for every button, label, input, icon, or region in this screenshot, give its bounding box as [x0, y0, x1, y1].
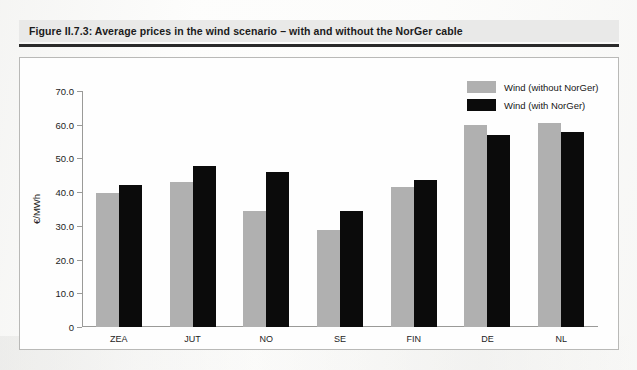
bar-pair: [391, 180, 437, 327]
y-tick-label: 50.0: [56, 153, 75, 164]
bar-pair: [317, 211, 363, 327]
bar-group: NL: [524, 91, 598, 327]
bar-group: DE: [451, 91, 525, 327]
x-tick-label-no: NO: [260, 334, 274, 344]
x-tick-label-de: DE: [481, 334, 494, 344]
chart-frame: Wind (without NorGer) Wind (with NorGer)…: [19, 57, 619, 350]
bar-se-without-norger[interactable]: [317, 230, 340, 327]
bar-pair: [243, 172, 289, 327]
y-tick-label: 60.0: [56, 119, 75, 130]
bar-jut-with-norger[interactable]: [193, 166, 216, 327]
bar-no-without-norger[interactable]: [243, 211, 266, 327]
y-tick-label: 30.0: [56, 220, 75, 231]
bar-group: NO: [229, 91, 303, 327]
bar-group: ZEA: [82, 91, 156, 327]
y-tick-label: 70.0: [56, 86, 75, 97]
x-tick-label-fin: FIN: [406, 334, 421, 344]
y-tick-label: 20.0: [56, 254, 75, 265]
bar-jut-without-norger[interactable]: [170, 182, 193, 327]
bar-fin-without-norger[interactable]: [391, 187, 414, 327]
plot-area: €/MWh 010.020.030.040.050.060.070.0 ZEAJ…: [82, 91, 598, 327]
y-tick-label: 10.0: [56, 288, 75, 299]
y-axis-title: €/MWh: [31, 194, 42, 224]
figure-title-rule: [19, 44, 619, 47]
bar-groups: ZEAJUTNOSEFINDENL: [82, 91, 598, 327]
bar-nl-without-norger[interactable]: [538, 123, 561, 327]
bar-pair: [96, 185, 142, 327]
bar-group: SE: [303, 91, 377, 327]
x-tick-label-nl: NL: [555, 334, 567, 344]
bar-no-with-norger[interactable]: [266, 172, 289, 327]
y-tick-label: 0: [69, 322, 74, 333]
bar-zea-with-norger[interactable]: [119, 185, 142, 327]
bar-de-with-norger[interactable]: [487, 135, 510, 327]
y-tick-mark: [77, 327, 82, 328]
x-tick-label-zea: ZEA: [110, 334, 128, 344]
bar-de-without-norger[interactable]: [464, 125, 487, 327]
bar-fin-with-norger[interactable]: [414, 180, 437, 327]
x-tick-label-se: SE: [334, 334, 346, 344]
bar-pair: [538, 123, 584, 327]
bar-group: FIN: [377, 91, 451, 327]
figure-title-banner: Figure II.7.3: Average prices in the win…: [19, 20, 619, 42]
bar-group: JUT: [156, 91, 230, 327]
bar-zea-without-norger[interactable]: [96, 193, 119, 327]
y-tick-label: 40.0: [56, 187, 75, 198]
bar-nl-with-norger[interactable]: [561, 132, 584, 327]
bar-pair: [464, 125, 510, 327]
bar-se-with-norger[interactable]: [340, 211, 363, 327]
figure-title: Figure II.7.3: Average prices in the win…: [19, 25, 463, 37]
bar-pair: [170, 166, 216, 327]
x-tick-label-jut: JUT: [184, 334, 201, 344]
